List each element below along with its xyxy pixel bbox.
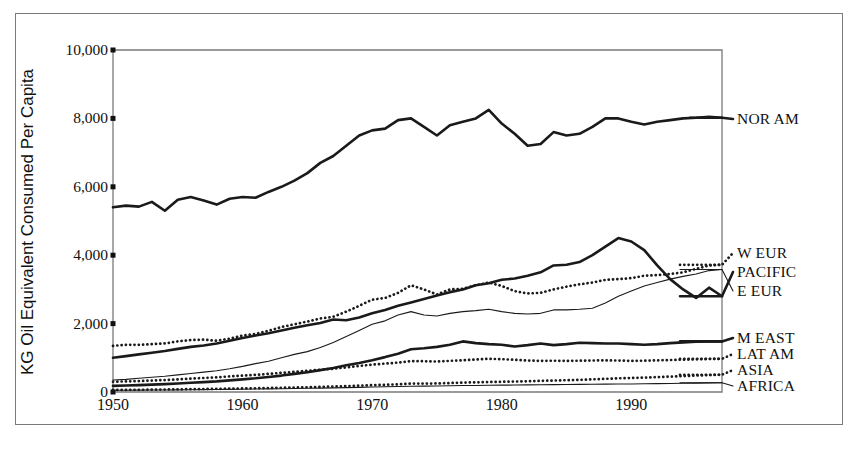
series-line-m-east (113, 341, 722, 385)
chart-figure: KG Oil Equivalent Consumed Per Capita 02… (0, 0, 855, 450)
plot-box (113, 50, 722, 392)
y-tick-mark (111, 184, 116, 189)
legend-leader-nor_am (690, 118, 733, 119)
legend-label-e_eur[interactable]: E EUR (737, 282, 782, 300)
series-line-lat-am (113, 359, 722, 382)
y-tick-mark (111, 48, 116, 53)
legend-leader-m_east (680, 338, 733, 341)
legend-label-w_eur[interactable]: W EUR (737, 244, 787, 262)
legend-leader-lat_am (680, 354, 733, 359)
series-line-nor-am (113, 110, 722, 211)
legend-label-nor_am[interactable]: NOR AM (737, 110, 799, 128)
legend-label-africa[interactable]: AFRICA (737, 377, 795, 395)
legend-label-pacific[interactable]: PACIFIC (737, 263, 796, 281)
series-line-w-eur (113, 265, 722, 346)
y-tick-mark (111, 253, 116, 258)
legend-leader-w_eur (680, 253, 733, 265)
y-tick-mark (111, 116, 116, 121)
legend-leader-africa (680, 383, 733, 386)
plot-area (0, 0, 855, 450)
y-tick-mark (111, 321, 116, 326)
legend-leader-asia (680, 370, 733, 375)
